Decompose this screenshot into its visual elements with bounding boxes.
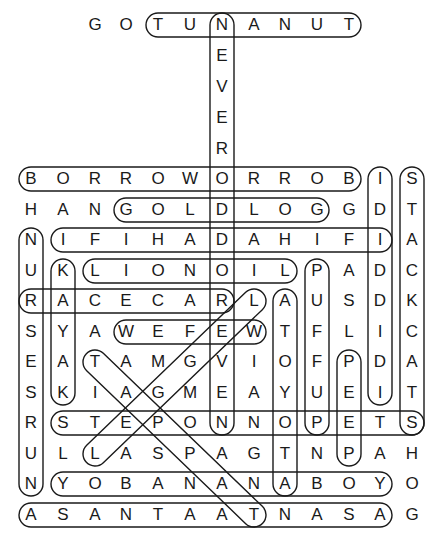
grid-letter: T [337, 13, 361, 37]
grid-letter: V [210, 350, 234, 374]
grid-letter: N [83, 198, 107, 222]
grid-letter: S [51, 503, 75, 527]
grid-letter: R [114, 167, 138, 191]
grid-letter: U [178, 13, 202, 37]
grid-letter: L [337, 320, 361, 344]
grid-letter: P [305, 259, 329, 283]
grid-letter: M [146, 350, 170, 374]
grid-letter: C [83, 289, 107, 313]
grid-letter: A [210, 472, 234, 496]
grid-letter: N [19, 228, 43, 252]
grid-letter: S [400, 167, 424, 191]
grid-letter: A [114, 381, 138, 405]
grid-letter: S [400, 411, 424, 435]
grid-letter: W [114, 320, 138, 344]
grid-letter: P [178, 442, 202, 466]
grid-letter: A [83, 320, 107, 344]
grid-letter: Y [368, 472, 392, 496]
grid-letter: D [210, 228, 234, 252]
grid-letter: U [19, 259, 43, 283]
grid-letter: N [210, 411, 234, 435]
grid-letter: L [242, 289, 266, 313]
grid-letter: O [273, 350, 297, 374]
grid-letter: O [178, 411, 202, 435]
grid-letter: S [19, 381, 43, 405]
grid-letter: N [305, 442, 329, 466]
grid-letter: R [242, 167, 266, 191]
grid-letter: N [273, 13, 297, 37]
grid-letter: F [305, 350, 329, 374]
grid-letter: A [178, 503, 202, 527]
grid-letter: A [210, 442, 234, 466]
grid-letter: A [83, 503, 107, 527]
grid-letter: I [368, 381, 392, 405]
grid-letter: D [210, 198, 234, 222]
grid-letter: G [242, 442, 266, 466]
grid-letter: A [51, 350, 75, 374]
grid-letter: E [210, 381, 234, 405]
grid-letter: O [146, 259, 170, 283]
grid-letter: A [51, 198, 75, 222]
grid-letter: O [305, 167, 329, 191]
grid-letter: E [114, 411, 138, 435]
grid-letter: A [114, 442, 138, 466]
grid-letter: T [242, 503, 266, 527]
grid-letter: U [305, 289, 329, 313]
grid-letter: A [337, 259, 361, 283]
grid-letter: W [178, 167, 202, 191]
grid-letter: U [19, 442, 43, 466]
grid-letter: F [337, 228, 361, 252]
grid-letter: R [210, 137, 234, 161]
grid-letter: A [273, 289, 297, 313]
grid-letter: O [114, 13, 138, 37]
grid-letter: R [210, 289, 234, 313]
grid-letter: A [242, 228, 266, 252]
grid-letter: T [400, 198, 424, 222]
grid-letter: B [19, 167, 43, 191]
grid-letter: D [368, 289, 392, 313]
grid-letter: B [337, 167, 361, 191]
grid-letter: E [210, 320, 234, 344]
grid-letter: R [19, 411, 43, 435]
grid-letter: A [242, 381, 266, 405]
grid-letter: A [178, 289, 202, 313]
grid-letter: O [273, 198, 297, 222]
grid-letter: I [368, 167, 392, 191]
grid-letter: S [337, 289, 361, 313]
grid-letter: O [210, 167, 234, 191]
grid-letter: G [400, 503, 424, 527]
grid-letter: A [242, 13, 266, 37]
grid-letter: N [114, 503, 138, 527]
grid-letter: T [146, 13, 170, 37]
grid-letter: I [242, 259, 266, 283]
grid-letter: O [337, 472, 361, 496]
grid-letter: Y [51, 472, 75, 496]
grid-letter: C [146, 289, 170, 313]
grid-letter: B [114, 472, 138, 496]
grid-letter: I [114, 228, 138, 252]
grid-letter: A [368, 503, 392, 527]
grid-letter: U [305, 13, 329, 37]
grid-letter: T [273, 442, 297, 466]
grid-letter: A [400, 228, 424, 252]
grid-letter: E [210, 106, 234, 130]
grid-letter: O [146, 198, 170, 222]
grid-letter: O [400, 472, 424, 496]
grid-letter: K [51, 259, 75, 283]
grid-letter: P [337, 442, 361, 466]
grid-letter: L [83, 442, 107, 466]
grid-letter: L [178, 198, 202, 222]
grid-letter: T [83, 411, 107, 435]
grid-letter: L [83, 259, 107, 283]
grid-letter: N [178, 472, 202, 496]
grid-letter: O [146, 167, 170, 191]
grid-letter: G [178, 350, 202, 374]
grid-letter: H [400, 442, 424, 466]
grid-letter: B [305, 472, 329, 496]
grid-letter: R [273, 167, 297, 191]
word-loop-puffup [305, 259, 329, 435]
grid-letter: K [400, 289, 424, 313]
grid-letter: F [305, 320, 329, 344]
grid-letter: F [178, 320, 202, 344]
grid-letter: D [368, 259, 392, 283]
